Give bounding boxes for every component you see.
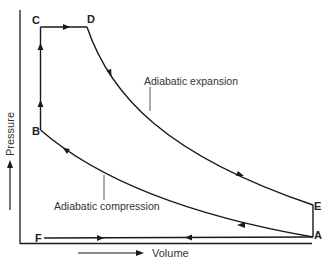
arrow-c-d-icon	[63, 24, 70, 30]
annotation-adiabatic-expansion: Adiabatic expansion	[144, 75, 238, 87]
point-label-c: C	[32, 14, 40, 26]
point-label-a: A	[314, 229, 322, 241]
point-label-d: D	[87, 13, 95, 25]
arrow-b-c-lower-icon	[38, 100, 44, 107]
path-d-e-expansion	[87, 27, 313, 205]
path-a-b-compression	[41, 130, 314, 237]
arrow-b-c-upper-icon	[38, 43, 44, 50]
arrow-f-a-icon	[97, 235, 104, 241]
y-axis-title: Pressure	[4, 112, 16, 156]
volume-arrowhead-icon	[136, 250, 144, 256]
x-axis-title: Volume	[152, 247, 189, 259]
pressure-arrowhead-icon	[7, 160, 13, 168]
pv-diagram	[0, 0, 328, 262]
path-f-a	[44, 237, 313, 238]
arrow-a-f-icon	[185, 235, 192, 241]
point-label-e: E	[314, 200, 321, 212]
point-label-f: F	[35, 232, 42, 244]
arrow-d-e-lower-icon	[236, 171, 244, 176]
annotation-adiabatic-compression: Adiabatic compression	[54, 200, 160, 212]
point-label-b: B	[32, 125, 40, 137]
arrow-a-b-lower-icon	[237, 222, 245, 228]
